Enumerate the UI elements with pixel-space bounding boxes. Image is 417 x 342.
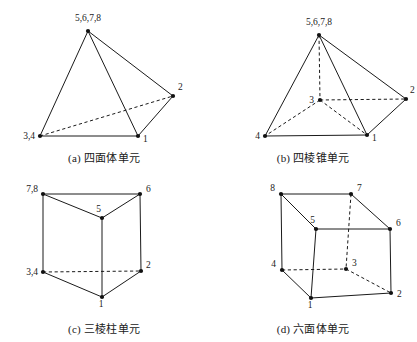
node-dot [389, 291, 393, 295]
panel-pyramid: 5,6,7,82341 (b)四棱锥单元 [209, 0, 417, 171]
diagram-pyramid: 5,6,7,82341 [209, 0, 417, 146]
node-dot [314, 227, 318, 231]
edge-visible [282, 270, 311, 298]
edge-visible [265, 35, 319, 136]
node-label: 6 [396, 218, 401, 228]
caption-pyramid: (b)四棱锥单元 [209, 149, 417, 165]
caption-text-d: 六面体单元 [293, 323, 349, 335]
caption-prism: (c)三棱柱单元 [0, 320, 208, 336]
node-dot [139, 269, 143, 273]
node-label: 5,6,7,8 [75, 13, 101, 23]
caption-tag-c: (c) [68, 323, 81, 335]
node-dot [280, 268, 284, 272]
edge-hidden [282, 269, 346, 270]
node-dot [86, 29, 90, 33]
edge-visible [43, 272, 102, 297]
node-dot [318, 98, 322, 102]
node-label: 1 [99, 299, 104, 309]
edge-visible [265, 135, 367, 136]
edge-visible [367, 99, 406, 135]
edge-visible [319, 35, 367, 135]
node-label: 5,6,7,8 [306, 17, 332, 27]
caption-tag-b: (b) [277, 152, 290, 164]
node-dot [279, 192, 283, 196]
node-label: 2 [410, 85, 415, 95]
node-label: 5 [96, 204, 101, 214]
node-label: 2 [178, 82, 183, 92]
node-label: 2 [397, 289, 402, 299]
edge-visible [140, 194, 141, 271]
edge-visible [281, 194, 282, 270]
edge-hidden [40, 96, 173, 136]
node-label: 1 [143, 134, 148, 144]
node-label: 4 [271, 259, 276, 269]
node-label: 4 [255, 131, 260, 141]
edge-visible [43, 194, 102, 218]
caption-tag-a: (a) [68, 152, 81, 164]
panel-tetrahedron: 5,6,7,823,41 (a)四面体单元 [0, 0, 208, 171]
edge-visible [319, 35, 406, 99]
node-label: 7,8 [26, 184, 38, 194]
panel-hexahedron: 87564312 (d)六面体单元 [209, 171, 417, 342]
diagram-tetrahedron: 5,6,7,823,41 [0, 0, 208, 146]
node-label: 3,4 [23, 131, 35, 141]
edge-hidden [265, 100, 320, 136]
edge-visible [311, 293, 391, 298]
node-label: 7 [357, 183, 362, 193]
node-label: 5 [310, 215, 315, 225]
node-label: 3,4 [26, 267, 38, 277]
edge-visible [40, 31, 88, 136]
node-dot [41, 270, 45, 274]
node-label: 3 [309, 95, 314, 105]
node-dot [317, 33, 321, 37]
edge-visible [88, 31, 138, 136]
diagram-hexahedron: 87564312 [209, 171, 417, 317]
node-dot [349, 192, 353, 196]
edge-visible [88, 31, 173, 96]
node-dot [41, 192, 45, 196]
caption-text-b: 四棱锥单元 [293, 152, 349, 164]
node-dot [171, 94, 175, 98]
caption-text-c: 三棱柱单元 [84, 323, 140, 335]
edge-visible [102, 194, 140, 218]
diagram-prism: 7,8653,421 [0, 171, 208, 317]
edge-visible [390, 229, 391, 293]
figure-sheet: 5,6,7,823,41 (a)四面体单元 5,6,7,82341 (b)四棱锥… [0, 0, 417, 342]
node-label: 1 [372, 133, 377, 143]
edge-hidden [320, 100, 367, 135]
node-dot [365, 133, 369, 137]
caption-tetrahedron: (a)四面体单元 [0, 149, 208, 165]
node-dot [404, 97, 408, 101]
node-label: 6 [146, 184, 151, 194]
node-label: 3 [352, 258, 357, 268]
edge-visible [351, 194, 390, 229]
edge-visible [311, 229, 316, 298]
caption-text-a: 四面体单元 [84, 152, 140, 164]
edge-hidden [319, 35, 320, 100]
node-dot [38, 134, 42, 138]
caption-hexahedron: (d)六面体单元 [209, 320, 417, 336]
edge-hidden [346, 269, 391, 293]
node-dot [263, 134, 267, 138]
edge-hidden [320, 99, 406, 100]
edge-hidden [43, 271, 141, 272]
node-label: 1 [308, 300, 313, 310]
node-dot [344, 267, 348, 271]
node-dot [138, 192, 142, 196]
node-label: 2 [146, 260, 151, 270]
edge-hidden [346, 194, 351, 269]
node-label: 8 [270, 183, 275, 193]
node-dot [388, 227, 392, 231]
edge-visible [138, 96, 173, 136]
panel-prism: 7,8653,421 (c)三棱柱单元 [0, 171, 208, 342]
caption-tag-d: (d) [277, 323, 290, 335]
node-dot [136, 134, 140, 138]
node-dot [100, 216, 104, 220]
edge-visible [102, 271, 141, 297]
